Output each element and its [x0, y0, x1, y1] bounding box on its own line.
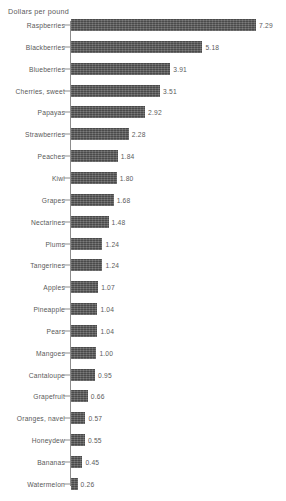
bar-row: Cantaloupe0.95 — [0, 364, 286, 386]
axis-tick — [64, 309, 71, 310]
axis-tick — [64, 221, 71, 222]
bar-row: Raspberries7.29 — [0, 14, 286, 36]
category-label: Watermelon — [27, 480, 65, 487]
bar-value-label: 1.00 — [99, 349, 113, 356]
bar — [71, 216, 109, 228]
bar — [71, 369, 95, 381]
bar — [71, 63, 170, 75]
bar-value-label: 0.26 — [81, 480, 95, 487]
bar — [71, 19, 256, 31]
bar-value-label: 1.07 — [101, 284, 115, 291]
bar — [71, 325, 97, 337]
bar-row: Plums1.24 — [0, 233, 286, 255]
bar-row: Honeydew0.55 — [0, 429, 286, 451]
bar-row: Watermelon0.26 — [0, 473, 286, 495]
bar — [71, 412, 85, 424]
bar-row: Oranges, navel0.57 — [0, 407, 286, 429]
bar-row: Peaches1.84 — [0, 145, 286, 167]
axis-tick — [64, 177, 71, 178]
category-label: Bananas — [37, 459, 65, 466]
axis-tick — [64, 90, 71, 91]
axis-tick — [64, 483, 71, 484]
bar-value-label: 2.92 — [148, 109, 162, 116]
bar-row: Tangerines1.24 — [0, 254, 286, 276]
bar — [71, 238, 102, 250]
bar — [71, 434, 85, 446]
axis-tick — [64, 243, 71, 244]
axis-tick — [64, 265, 71, 266]
category-label: Oranges, navel — [17, 415, 65, 422]
bar-row: Pineapple1.04 — [0, 298, 286, 320]
bar-row: Mangoes1.00 — [0, 342, 286, 364]
axis-tick — [64, 440, 71, 441]
bar — [71, 456, 82, 468]
bar-value-label: 1.24 — [105, 240, 119, 247]
bar-row: Bananas0.45 — [0, 451, 286, 473]
bar-value-label: 0.55 — [88, 437, 102, 444]
bar-value-label: 5.18 — [205, 43, 219, 50]
axis-tick — [64, 418, 71, 419]
category-label: Mangoes — [36, 349, 65, 356]
bar-value-label: 7.29 — [259, 22, 273, 29]
axis-tick — [64, 330, 71, 331]
bar — [71, 303, 97, 315]
bar — [71, 172, 117, 184]
bar-value-label: 3.51 — [163, 87, 177, 94]
category-label: Pineapple — [33, 306, 65, 313]
bar-value-label: 1.80 — [120, 174, 134, 181]
category-label: Apples — [43, 284, 65, 291]
category-label: Honeydew — [32, 437, 65, 444]
category-label: Plums — [45, 240, 65, 247]
axis-tick — [64, 287, 71, 288]
category-label: Pears — [47, 327, 65, 334]
bar-row: Pears1.04 — [0, 320, 286, 342]
category-label: Cherries, sweet — [16, 87, 65, 94]
plot-area: Raspberries7.29Blackberries5.18Blueberri… — [0, 0, 286, 501]
axis-tick — [64, 156, 71, 157]
bar — [71, 128, 129, 140]
bar — [71, 106, 145, 118]
bar-value-label: 0.45 — [85, 459, 99, 466]
bar-row: Cherries, sweet3.51 — [0, 80, 286, 102]
axis-tick — [64, 352, 71, 353]
bar — [71, 347, 96, 359]
bar-row: Strawberries2.28 — [0, 123, 286, 145]
bar-value-label: 0.57 — [88, 415, 102, 422]
bar-row: Apples1.07 — [0, 276, 286, 298]
bar-row: Blueberries3.91 — [0, 58, 286, 80]
category-label: Blueberries — [29, 65, 65, 72]
bar — [71, 85, 160, 97]
axis-tick — [64, 25, 71, 26]
bar — [71, 390, 88, 402]
bar-value-label: 1.48 — [112, 218, 126, 225]
bar — [71, 478, 78, 490]
bar — [71, 259, 102, 271]
bar-value-label: 3.91 — [173, 65, 187, 72]
bar-chart: Dollars per pound Raspberries7.29Blackbe… — [0, 0, 286, 501]
bar-value-label: 1.04 — [100, 306, 114, 313]
category-label: Grapefruit — [33, 393, 65, 400]
category-label: Tangerines — [30, 262, 65, 269]
bar-row: Blackberries5.18 — [0, 36, 286, 58]
category-label: Peaches — [38, 153, 65, 160]
category-label: Grapes — [42, 196, 65, 203]
bar — [71, 281, 98, 293]
category-label: Blackberries — [26, 43, 65, 50]
bar-row: Kiwi1.80 — [0, 167, 286, 189]
axis-tick — [64, 134, 71, 135]
bar-value-label: 1.04 — [100, 327, 114, 334]
axis-tick — [64, 112, 71, 113]
category-label: Strawberries — [25, 131, 65, 138]
bar — [71, 194, 114, 206]
bar-row: Nectarines1.48 — [0, 211, 286, 233]
axis-tick — [64, 46, 71, 47]
category-label: Nectarines — [31, 218, 65, 225]
axis-tick — [64, 68, 71, 69]
bar-row: Grapefruit0.66 — [0, 385, 286, 407]
axis-tick — [64, 374, 71, 375]
bar-value-label: 1.84 — [121, 153, 135, 160]
bar-value-label: 1.24 — [105, 262, 119, 269]
axis-tick — [64, 199, 71, 200]
axis-tick — [64, 462, 71, 463]
category-label: Papayas — [38, 109, 65, 116]
